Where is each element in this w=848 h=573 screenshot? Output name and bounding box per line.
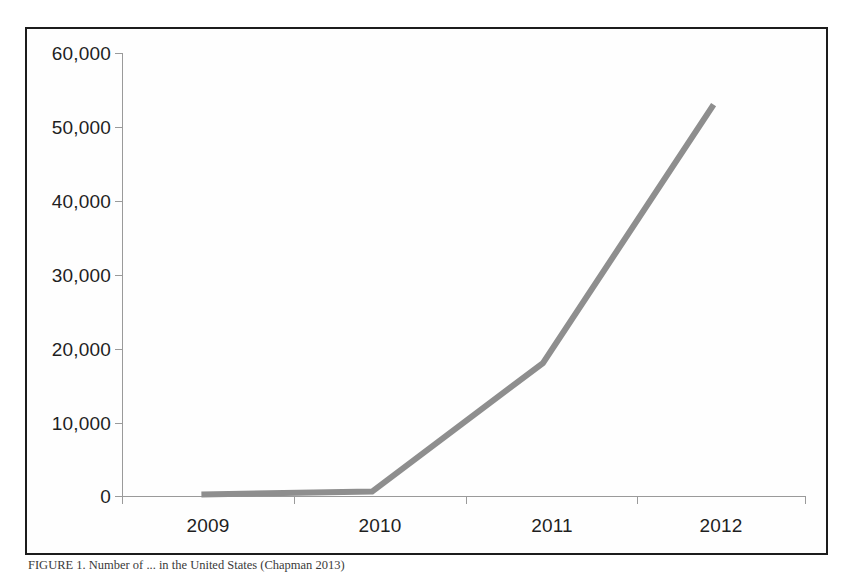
data-line-series-1: [201, 105, 713, 495]
figure-page: 60,000 50,000 40,000 30,000 20,000 10,00…: [0, 0, 848, 573]
chart-series-svg: [27, 29, 830, 557]
chart-plot-area: 60,000 50,000 40,000 30,000 20,000 10,00…: [27, 29, 830, 557]
figure-caption: FIGURE 1. Number of ... in the United St…: [28, 558, 828, 572]
figure-border: 60,000 50,000 40,000 30,000 20,000 10,00…: [25, 27, 828, 555]
